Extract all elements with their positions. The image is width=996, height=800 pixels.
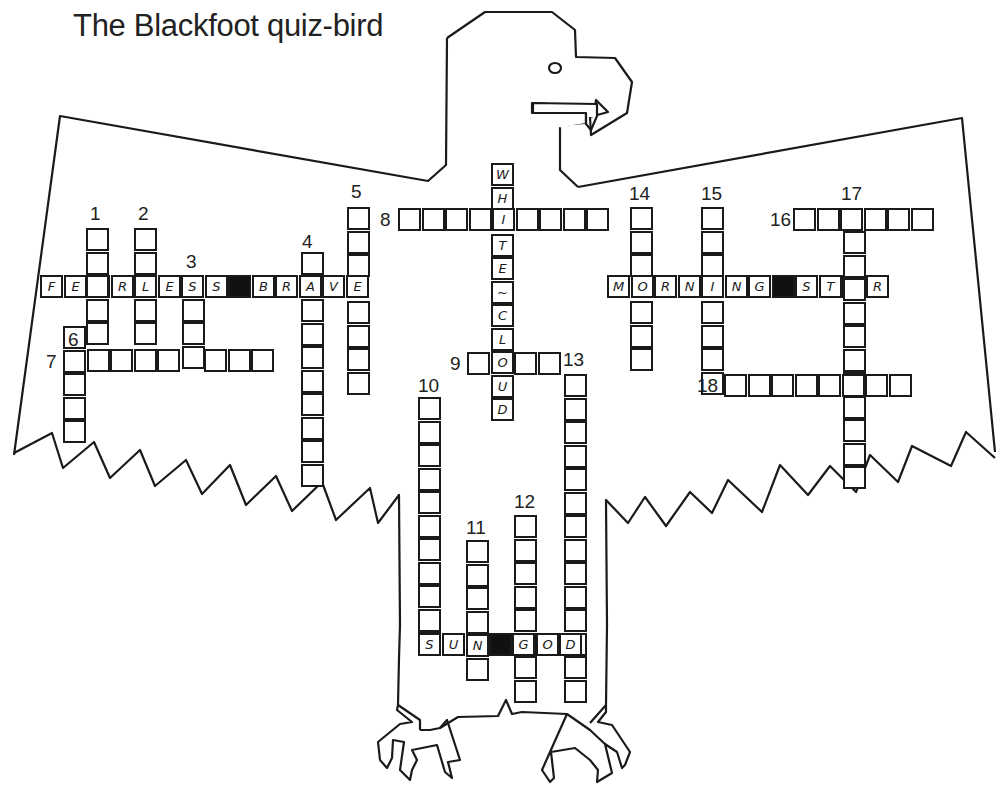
crossword-cell[interactable] <box>817 208 840 231</box>
crossword-cell[interactable] <box>564 539 587 562</box>
crossword-cell[interactable] <box>514 562 537 585</box>
crossword-cell[interactable]: S <box>795 275 818 298</box>
crossword-cell[interactable] <box>564 609 587 632</box>
crossword-cell[interactable] <box>539 208 562 231</box>
crossword-cell[interactable] <box>418 609 441 632</box>
crossword-cell[interactable] <box>724 374 747 397</box>
crossword-cell[interactable] <box>301 299 324 322</box>
crossword-cell[interactable] <box>843 466 866 489</box>
crossword-cell[interactable] <box>418 515 441 538</box>
crossword-cell[interactable] <box>347 254 370 277</box>
crossword-cell[interactable] <box>86 252 109 275</box>
crossword-cell[interactable] <box>86 322 109 345</box>
crossword-cell[interactable] <box>701 325 724 348</box>
crossword-cell[interactable] <box>63 420 86 443</box>
crossword-cell[interactable] <box>564 656 587 679</box>
crossword-cell[interactable] <box>630 254 653 277</box>
crossword-cell[interactable] <box>418 468 441 491</box>
crossword-cell[interactable] <box>467 352 490 375</box>
crossword-cell[interactable]: N <box>725 275 748 298</box>
crossword-cell[interactable]: U <box>442 633 465 656</box>
crossword-cell[interactable] <box>538 352 561 375</box>
crossword-cell[interactable] <box>701 231 724 254</box>
crossword-cell[interactable]: V <box>322 275 345 298</box>
crossword-cell[interactable] <box>840 208 863 231</box>
crossword-cell[interactable] <box>445 208 468 231</box>
crossword-cell[interactable] <box>564 515 587 538</box>
crossword-cell[interactable]: D <box>491 398 514 421</box>
crossword-cell[interactable] <box>843 419 866 442</box>
crossword-cell[interactable]: A <box>299 275 322 298</box>
crossword-cell[interactable] <box>347 325 370 348</box>
crossword-cell[interactable] <box>516 208 539 231</box>
crossword-cell[interactable]: S <box>418 633 441 656</box>
crossword-cell[interactable] <box>843 278 866 301</box>
crossword-cell[interactable] <box>134 228 157 251</box>
crossword-cell[interactable]: E <box>346 275 369 298</box>
crossword-cell[interactable] <box>514 609 537 632</box>
crossword-cell[interactable] <box>564 562 587 585</box>
crossword-cell[interactable] <box>630 231 653 254</box>
crossword-cell[interactable]: G <box>748 275 771 298</box>
crossword-cell[interactable] <box>301 393 324 416</box>
crossword-cell[interactable] <box>418 397 441 420</box>
crossword-cell[interactable] <box>564 492 587 515</box>
crossword-cell[interactable] <box>347 348 370 371</box>
crossword-cell[interactable] <box>466 540 489 563</box>
crossword-cell[interactable] <box>157 349 180 372</box>
crossword-cell[interactable]: E <box>64 275 87 298</box>
crossword-cell[interactable] <box>63 373 86 396</box>
crossword-cell[interactable] <box>301 346 324 369</box>
crossword-cell[interactable] <box>795 374 818 397</box>
crossword-cell[interactable]: L <box>491 328 514 351</box>
crossword-cell[interactable] <box>134 322 157 345</box>
crossword-cell[interactable]: S <box>205 275 228 298</box>
crossword-cell[interactable] <box>564 445 587 468</box>
crossword-cell[interactable]: I <box>701 275 724 298</box>
crossword-cell[interactable]: G <box>512 633 535 656</box>
crossword-cell[interactable]: ~ <box>491 281 514 304</box>
crossword-cell[interactable] <box>842 374 865 397</box>
crossword-cell[interactable]: N <box>678 275 701 298</box>
crossword-cell[interactable]: B <box>252 275 275 298</box>
crossword-cell[interactable] <box>228 349 251 372</box>
crossword-cell[interactable]: R <box>866 275 889 298</box>
crossword-cell[interactable] <box>701 348 724 371</box>
crossword-cell[interactable] <box>514 656 537 679</box>
crossword-cell[interactable] <box>564 586 587 609</box>
crossword-cell[interactable]: U <box>491 375 514 398</box>
crossword-cell[interactable]: C <box>491 304 514 327</box>
crossword-cell[interactable] <box>818 374 841 397</box>
crossword-cell[interactable] <box>251 349 274 372</box>
crossword-cell[interactable] <box>134 299 157 322</box>
crossword-cell[interactable] <box>865 374 888 397</box>
crossword-cell[interactable] <box>347 301 370 324</box>
crossword-cell[interactable] <box>63 350 86 373</box>
crossword-cell[interactable] <box>63 397 86 420</box>
crossword-cell[interactable] <box>864 208 887 231</box>
crossword-cell[interactable]: O <box>536 633 559 656</box>
crossword-cell[interactable] <box>630 207 653 230</box>
crossword-cell[interactable]: E <box>491 257 514 280</box>
crossword-cell[interactable]: S <box>181 275 204 298</box>
crossword-cell[interactable] <box>347 231 370 254</box>
crossword-cell[interactable] <box>630 301 653 324</box>
crossword-cell[interactable]: I <box>492 208 515 231</box>
crossword-cell[interactable] <box>466 658 489 681</box>
crossword-cell[interactable] <box>701 207 724 230</box>
crossword-cell[interactable] <box>564 468 587 491</box>
crossword-cell[interactable]: F <box>40 275 63 298</box>
crossword-cell[interactable] <box>134 252 157 275</box>
crossword-cell[interactable]: R <box>654 275 677 298</box>
crossword-cell[interactable] <box>701 301 724 324</box>
crossword-cell[interactable] <box>889 374 912 397</box>
crossword-cell[interactable] <box>514 586 537 609</box>
crossword-cell[interactable] <box>418 444 441 467</box>
crossword-cell[interactable] <box>630 348 653 371</box>
crossword-cell[interactable] <box>418 538 441 561</box>
crossword-cell[interactable] <box>418 562 441 585</box>
crossword-cell[interactable] <box>86 228 109 251</box>
crossword-cell[interactable] <box>564 421 587 444</box>
crossword-cell[interactable]: O <box>491 351 514 374</box>
crossword-cell[interactable] <box>134 349 157 372</box>
